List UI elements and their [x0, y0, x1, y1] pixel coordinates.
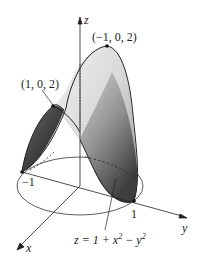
- tick-label-pos-one: 1: [131, 208, 137, 220]
- point-pos1-tick: [132, 199, 136, 203]
- equation-mid: − y: [122, 233, 141, 247]
- equation-lhs: z = 1 + x: [74, 233, 118, 247]
- point-neg1-tick: [20, 170, 24, 174]
- surface-left-lobe: [22, 106, 64, 172]
- y-axis-label: y: [182, 222, 187, 234]
- point-neg1-0-2: [105, 44, 109, 48]
- y-axis-arrow-icon: [179, 214, 187, 218]
- saddle-surface-figure: z (−1, 0, 2) (1, 0, 2) −1 1 y x z = 1 + …: [0, 0, 198, 262]
- point-label-top-left: (1, 0, 2): [21, 78, 59, 90]
- tick-label-neg-one: −1: [22, 176, 35, 188]
- equation-label: z = 1 + x2 − y2: [74, 234, 146, 246]
- point-label-top-right: (−1, 0, 2): [92, 31, 137, 43]
- z-axis-arrow-icon: [78, 17, 82, 24]
- point-1-0-2: [51, 104, 55, 108]
- equation-exp2: 2: [142, 232, 146, 241]
- x-axis-line: [20, 186, 80, 246]
- x-axis-arrow-icon: [17, 243, 24, 250]
- z-axis-label: z: [84, 14, 89, 26]
- x-axis-label: x: [26, 242, 31, 254]
